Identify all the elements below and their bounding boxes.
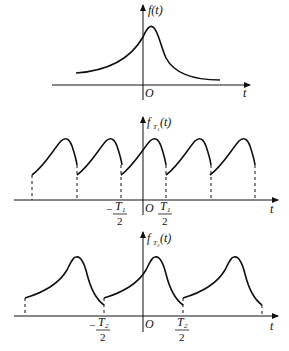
y-axis-label-tail: (t) (160, 231, 171, 245)
svg-text:2: 2 (117, 215, 123, 227)
panel-periodic-t1: f T 1 (t) O t − T 1 2 T 1 2 (14, 115, 278, 227)
svg-text:−: − (106, 203, 112, 215)
x-axis-label: t (243, 86, 247, 100)
origin-label: O (145, 86, 154, 100)
origin-label: O (145, 201, 154, 215)
x-axis-label: t (270, 319, 274, 333)
svg-text:2: 2 (105, 322, 109, 330)
figure-canvas: f(t) O t f T 1 (t) O t − (0, 0, 289, 351)
svg-text:−: − (89, 319, 95, 331)
y-axis-label: f (147, 115, 152, 129)
panel-periodic-t2: f T 2 (t) O t − T 2 2 T 2 2 (14, 231, 278, 343)
svg-text:1: 1 (122, 206, 126, 214)
x-axis-label: t (270, 202, 274, 216)
svg-text:2: 2 (162, 215, 168, 227)
tick-label-pos-half-period: T 2 2 (175, 315, 189, 343)
svg-text:2: 2 (100, 331, 106, 343)
tick-label-pos-half-period: T 1 2 (158, 199, 172, 227)
y-axis-label: f (147, 231, 152, 245)
panel-original: f(t) O t (52, 3, 250, 100)
tick-label-neg-half-period: − T 2 2 (89, 315, 110, 343)
svg-text:1: 1 (167, 206, 171, 214)
y-axis-label-tail: (t) (160, 115, 171, 129)
pulse-curve (76, 26, 220, 80)
svg-text:2: 2 (179, 331, 185, 343)
tick-label-neg-half-period: − T 1 2 (106, 199, 127, 227)
y-axis-label: f(t) (148, 3, 163, 17)
svg-text:2: 2 (184, 322, 188, 330)
origin-label: O (145, 317, 154, 331)
